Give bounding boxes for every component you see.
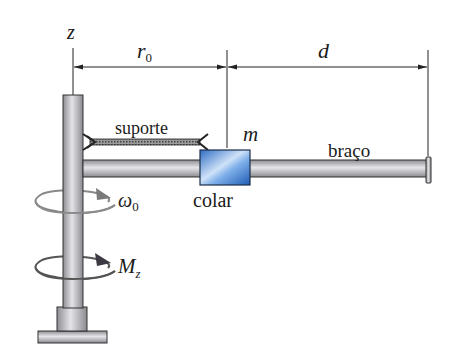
base-plate [38, 331, 107, 343]
rotating-arm-diagram [0, 0, 455, 362]
angular-velocity-label: ω0 [118, 190, 139, 210]
r0-dimension [74, 65, 226, 70]
moment-symbol: M [118, 254, 136, 278]
mass-label: m [243, 124, 258, 145]
arm-end-cap [426, 157, 431, 183]
omega-subscript: 0 [132, 199, 139, 214]
r0-subscript: 0 [146, 50, 153, 65]
moment-label: Mz [118, 256, 141, 277]
d-dimension [228, 65, 427, 70]
omega-symbol: ω [118, 189, 132, 211]
support-label: suporte [115, 119, 168, 137]
r0-label: r0 [137, 40, 152, 62]
moment-subscript: z [136, 266, 141, 281]
collar-label: colar [193, 190, 233, 210]
z-axis-label: z [67, 22, 75, 42]
d-label: d [318, 40, 329, 62]
r0-symbol: r [137, 38, 146, 63]
vertical-post [63, 95, 83, 308]
collar [200, 150, 250, 185]
arm-bar [83, 160, 427, 177]
base-block [57, 307, 87, 331]
arm-label: braço [328, 141, 370, 160]
